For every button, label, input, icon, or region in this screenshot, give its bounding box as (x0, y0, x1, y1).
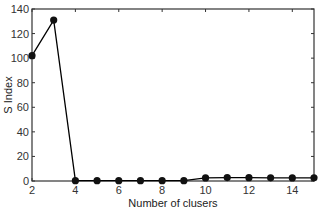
y-axis-title: S Index (2, 76, 14, 114)
data-point (224, 174, 231, 181)
data-point (289, 174, 296, 181)
x-axis-title: Number of clusers (128, 197, 218, 209)
x-tick-label: 8 (159, 184, 165, 196)
data-point (202, 174, 209, 181)
data-point (93, 177, 100, 184)
data-point (72, 177, 79, 184)
y-tick-label: 40 (17, 126, 29, 138)
x-tick-label: 2 (29, 184, 35, 196)
y-tick-label: 100 (11, 52, 29, 64)
data-point (115, 177, 122, 184)
plot-area: 2468101214020406080100120140 (11, 3, 318, 196)
y-tick-label: 120 (11, 28, 29, 40)
axes-frame (32, 9, 314, 181)
y-tick-label: 20 (17, 150, 29, 162)
y-tick-label: 60 (17, 101, 29, 113)
y-tick-label: 0 (23, 175, 29, 187)
data-point (28, 52, 35, 59)
data-line (32, 20, 314, 181)
data-point (50, 16, 57, 23)
x-tick-label: 4 (72, 184, 78, 196)
x-tick-label: 10 (199, 184, 211, 196)
y-tick-label: 80 (17, 77, 29, 89)
data-point (245, 174, 252, 181)
data-point (137, 177, 144, 184)
y-tick-label: 140 (11, 3, 29, 15)
line-chart: 2468101214020406080100120140 S Index Num… (0, 0, 318, 213)
data-point (159, 177, 166, 184)
data-point (267, 174, 274, 181)
x-tick-label: 6 (116, 184, 122, 196)
data-point (310, 174, 317, 181)
data-point (180, 177, 187, 184)
x-tick-label: 14 (286, 184, 298, 196)
x-tick-label: 12 (243, 184, 255, 196)
